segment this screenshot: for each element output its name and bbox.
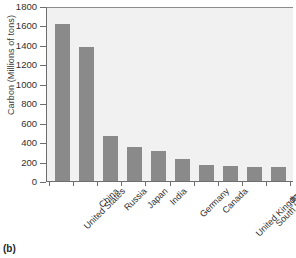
y-axis-tick-label: 600 xyxy=(0,119,37,129)
x-axis-tick-labels: United StatesChinaRussiaJapanIndiaGerman… xyxy=(46,186,293,246)
plot-area xyxy=(46,7,293,182)
y-axis-tick xyxy=(40,104,46,105)
x-axis-tick xyxy=(242,182,243,186)
bar xyxy=(79,47,94,181)
y-axis-tick-label: 0 xyxy=(0,177,37,187)
figure-panel: Carbon (Millions of tons) United StatesC… xyxy=(0,0,296,258)
y-axis-tick xyxy=(40,7,46,8)
x-axis-tick xyxy=(121,182,122,186)
y-axis-tick xyxy=(40,143,46,144)
y-axis-tick xyxy=(40,46,46,47)
x-axis-tick xyxy=(73,182,74,186)
bar xyxy=(103,136,118,181)
y-axis-tick-label: 1600 xyxy=(0,21,37,31)
panel-label: (b) xyxy=(3,243,16,254)
y-axis-tick-label: 1000 xyxy=(0,80,37,90)
x-axis-tick xyxy=(97,182,98,186)
y-axis-tick xyxy=(40,26,46,27)
x-axis-tick xyxy=(170,182,171,186)
bar xyxy=(175,159,190,181)
y-axis-tick xyxy=(40,163,46,164)
y-axis-tick-label: 1200 xyxy=(0,60,37,70)
y-axis-tick-label: 1400 xyxy=(0,41,37,51)
y-axis-tick-label: 1800 xyxy=(0,2,37,12)
x-axis-tick-label: Russia xyxy=(122,186,149,213)
x-axis-tick xyxy=(218,182,219,186)
bar-series xyxy=(47,8,293,181)
x-axis-tick-label: Japan xyxy=(146,186,170,210)
bar xyxy=(271,167,286,181)
bar xyxy=(55,24,70,181)
bar xyxy=(151,151,166,181)
y-axis-tick xyxy=(40,85,46,86)
x-axis-tick xyxy=(145,182,146,186)
y-axis-tick-label: 200 xyxy=(0,158,37,168)
y-axis-tick-label: 400 xyxy=(0,138,37,148)
x-axis-tick xyxy=(194,182,195,186)
y-axis-tick xyxy=(40,182,46,183)
y-axis-tick xyxy=(40,124,46,125)
x-axis-tick xyxy=(49,182,50,186)
bar xyxy=(223,166,238,181)
x-axis-tick xyxy=(266,182,267,186)
bar xyxy=(199,165,214,181)
y-axis-tick xyxy=(40,65,46,66)
bar xyxy=(247,167,262,181)
x-axis-tick-label: India xyxy=(168,186,189,207)
y-axis-tick-label: 800 xyxy=(0,99,37,109)
x-axis-tick xyxy=(290,182,291,186)
bar xyxy=(127,147,142,181)
